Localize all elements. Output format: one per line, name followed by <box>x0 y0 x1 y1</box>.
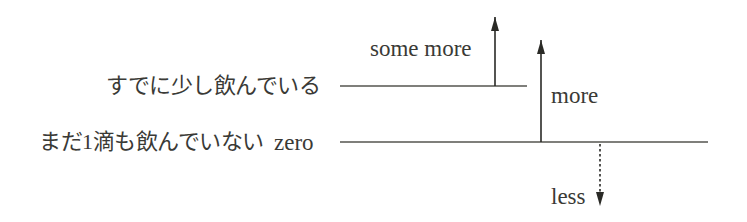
arrow-label-less: less <box>551 185 586 208</box>
quantity-diagram <box>0 0 747 222</box>
arrow-more-head <box>537 40 545 54</box>
arrow-less-head <box>596 192 604 206</box>
level-label-some-ja: すでに少し飲んでいる <box>106 75 320 97</box>
level-label-zero-en: zero <box>274 131 314 154</box>
level-label-zero-ja: まだ1滴も飲んでいない <box>39 131 264 153</box>
arrow-label-some-more: some more <box>370 37 472 60</box>
arrow-label-more: more <box>551 84 598 107</box>
arrow-some-more-head <box>491 17 499 31</box>
